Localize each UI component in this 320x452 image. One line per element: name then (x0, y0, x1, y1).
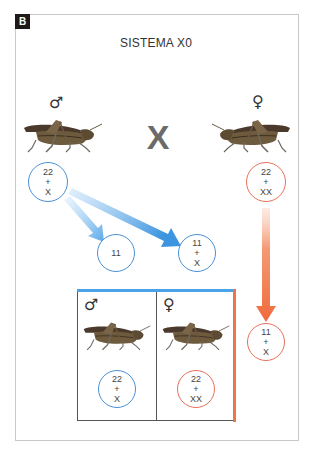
arrow-female-to-gamete-icon (256, 208, 276, 322)
offspring-female-karyotype: 22 + XX (177, 370, 215, 408)
male-parent-karyotype: 22 + X (28, 162, 68, 202)
offspring-box-right-border (233, 289, 236, 422)
male-gamete-11: 11 (97, 234, 135, 272)
offspring-box-divider (156, 292, 157, 421)
offspring-female-grasshopper-icon (161, 320, 231, 354)
female-parent-karyotype: 22 + XX (246, 162, 286, 202)
offspring-female-symbol-icon: ♀ (163, 297, 175, 313)
offspring-male-grasshopper-icon (82, 320, 152, 354)
offspring-male-karyotype: 22 + X (98, 370, 136, 408)
female-gamete-11x: 11 + X (247, 323, 285, 361)
offspring-male-symbol-icon: ♂ (84, 297, 98, 313)
male-gamete-11x: 11 + X (178, 234, 216, 272)
